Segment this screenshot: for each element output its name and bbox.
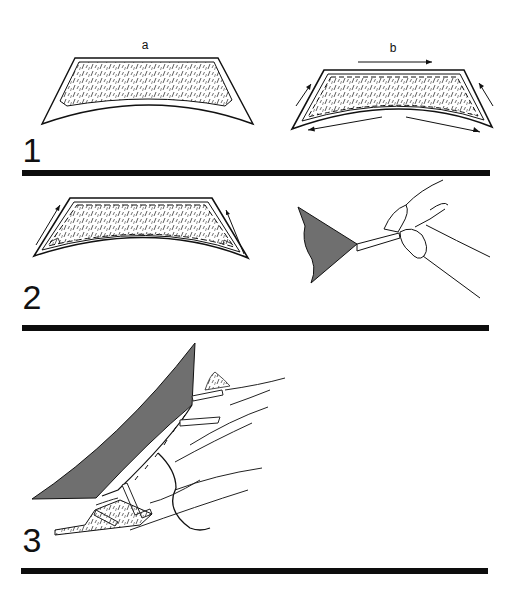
dark-fabric <box>32 343 195 499</box>
sublabel-a: a <box>142 38 149 52</box>
thread <box>158 453 210 530</box>
divider-rule-1 <box>22 170 490 176</box>
facing-bottom <box>55 500 152 535</box>
panel-3: 3 <box>23 343 285 559</box>
panel-number-3: 3 <box>23 521 42 559</box>
piece-a <box>42 58 253 124</box>
piece-b <box>292 60 493 133</box>
divider-rule-2 <box>22 325 489 331</box>
divider-rule-3 <box>21 568 488 574</box>
panel-number-2: 2 <box>23 278 42 316</box>
panel-2: 2 <box>23 180 490 316</box>
panel-1: a b 1 <box>23 38 493 169</box>
stitched-piece <box>34 198 248 258</box>
sublabel-b: b <box>390 41 397 55</box>
instruction-diagram: a b 1 <box>0 0 520 612</box>
panel-number-1: 1 <box>23 131 42 169</box>
corner-turning-hand <box>298 180 490 298</box>
facing-corner <box>205 372 230 390</box>
